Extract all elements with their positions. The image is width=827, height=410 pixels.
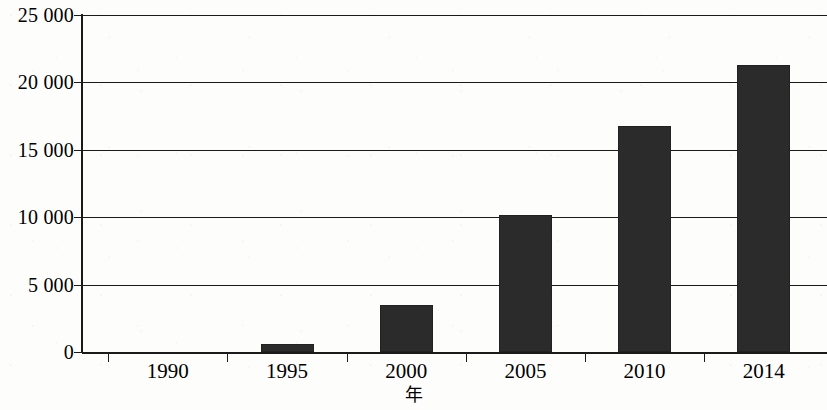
y-axis-tick-label: 20 000 xyxy=(2,72,74,92)
x-axis-tick-label: 1990 xyxy=(108,358,228,384)
x-axis-tick-label: 2005 xyxy=(465,358,585,384)
x-axis-title: 年 xyxy=(0,384,827,406)
y-axis-tick: 20 000 xyxy=(0,72,74,92)
bar xyxy=(618,126,671,352)
plot-area xyxy=(82,15,827,352)
bar-chart: 05 00010 00015 00020 00025 000 199019952… xyxy=(0,0,827,410)
gridline xyxy=(82,352,827,354)
bar xyxy=(499,215,552,352)
gridline xyxy=(82,217,827,218)
y-axis-tick-label: 25 000 xyxy=(2,5,74,25)
y-axis-tick: 10 000 xyxy=(0,207,74,227)
y-axis-tick-label: 0 xyxy=(2,342,74,362)
y-axis-tick-label: 5 000 xyxy=(2,275,74,295)
y-axis-tick-label: 10 000 xyxy=(2,207,74,227)
y-axis-tick-label: 15 000 xyxy=(2,140,74,160)
gridline xyxy=(82,15,827,16)
y-axis-tick: 25 000 xyxy=(0,5,74,25)
gridline xyxy=(82,82,827,83)
bar xyxy=(261,344,314,352)
bar xyxy=(737,65,790,352)
y-axis-tick: 0 xyxy=(0,342,74,362)
y-axis-tick: 15 000 xyxy=(0,140,74,160)
x-axis-tick-label: 2010 xyxy=(585,358,705,384)
x-axis-tick-label: 2014 xyxy=(704,358,824,384)
y-axis-tick: 5 000 xyxy=(0,275,74,295)
bar xyxy=(380,305,433,352)
x-axis-tick-label: 2000 xyxy=(346,358,466,384)
gridline xyxy=(82,150,827,151)
x-axis-tick-label: 1995 xyxy=(227,358,347,384)
gridline xyxy=(82,285,827,286)
